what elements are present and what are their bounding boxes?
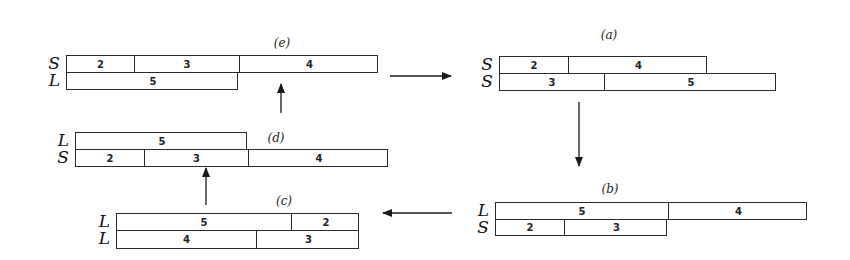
- segment-block: 4: [239, 56, 379, 72]
- row-letter: L: [44, 72, 60, 89]
- row-bar: 234: [66, 55, 378, 73]
- row-bar: 5: [66, 72, 238, 90]
- panel-label: (d): [267, 131, 284, 145]
- row-bar: 234: [75, 149, 388, 167]
- segment-block: 4: [248, 150, 389, 166]
- segment-block: 2: [496, 220, 564, 235]
- row-letter: S: [53, 149, 69, 166]
- segment-block: 2: [291, 214, 360, 230]
- segment-block: 3: [564, 220, 668, 235]
- row-letter: L: [94, 230, 110, 247]
- segment-block: 2: [500, 57, 568, 73]
- segment-block: 5: [76, 133, 248, 149]
- row-bar: 35: [499, 73, 776, 91]
- segment-block: 3: [144, 150, 248, 166]
- segment-block: 5: [496, 203, 668, 219]
- segment-block: 5: [117, 214, 291, 230]
- segment-block: 3: [134, 56, 239, 72]
- segment-block: 3: [500, 74, 604, 90]
- row-bar: 5: [75, 132, 247, 150]
- segment-block: 4: [117, 231, 256, 248]
- segment-block: 2: [76, 150, 144, 166]
- panel-label: (b): [601, 182, 618, 196]
- row-letter: S: [477, 73, 493, 90]
- row-bar: 54: [495, 202, 807, 220]
- row-letter: S: [473, 219, 489, 236]
- segment-block: 4: [568, 57, 708, 73]
- panel-label: (e): [274, 36, 290, 50]
- row-bar: 24: [499, 56, 707, 74]
- row-bar: 52: [116, 213, 359, 231]
- panel-label: (c): [276, 194, 292, 208]
- segment-block: 5: [67, 73, 239, 89]
- segment-block: 4: [668, 203, 808, 219]
- panel-label: (a): [601, 28, 618, 42]
- diagram-canvas: (e)S234L5(a)S24S35(b)L54S23(c)L52L43(d)L…: [0, 0, 850, 260]
- row-bar: 23: [495, 219, 667, 236]
- segment-block: 5: [604, 74, 777, 90]
- row-bar: 43: [116, 230, 359, 249]
- segment-block: 3: [256, 231, 360, 248]
- segment-block: 2: [67, 56, 134, 72]
